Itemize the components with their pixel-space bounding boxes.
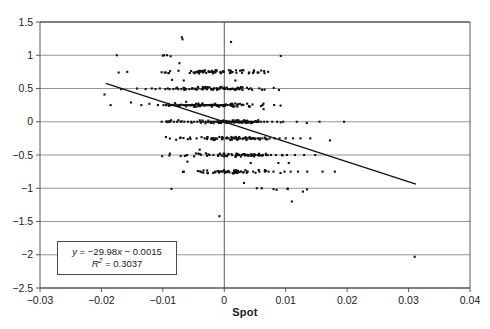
- scatter-point: [218, 106, 220, 108]
- scatter-point: [173, 121, 175, 123]
- scatter-point: [165, 104, 167, 106]
- y-tick-label: −1: [21, 182, 33, 194]
- scatter-point: [222, 87, 224, 89]
- scatter-point: [241, 69, 243, 71]
- scatter-point: [218, 136, 220, 138]
- scatter-point: [218, 215, 220, 217]
- scatter-point: [230, 88, 232, 90]
- scatter-point: [207, 86, 209, 88]
- scatter-point: [199, 119, 201, 121]
- scatter-point: [206, 169, 208, 171]
- scatter-point: [231, 71, 233, 73]
- scatter-point: [275, 154, 277, 156]
- scatter-point: [266, 138, 268, 140]
- scatter-point: [187, 138, 189, 140]
- scatter-point: [263, 72, 265, 74]
- scatter-point: [189, 136, 191, 138]
- scatter-point: [103, 93, 105, 95]
- scatter-point: [243, 119, 245, 121]
- scatter-point: [235, 88, 237, 90]
- scatter-point: [254, 138, 256, 140]
- scatter-point: [287, 188, 289, 190]
- scatter-point: [201, 119, 203, 121]
- scatter-point: [197, 86, 199, 88]
- scatter-point: [235, 69, 237, 71]
- scatter-point: [250, 153, 252, 155]
- scatter-point: [267, 171, 269, 173]
- scatter-point: [202, 169, 204, 171]
- scatter-point: [178, 62, 180, 64]
- scatter-point: [318, 121, 320, 123]
- scatter-point: [221, 170, 223, 172]
- scatter-point: [260, 121, 262, 123]
- scatter-point: [236, 171, 238, 173]
- scatter-point: [306, 188, 308, 190]
- scatter-point: [249, 106, 251, 108]
- scatter-point: [207, 121, 209, 123]
- scatter-point: [185, 101, 187, 103]
- scatter-point: [204, 122, 206, 124]
- scatter-point: [213, 122, 215, 124]
- scatter-point: [228, 104, 230, 106]
- x-tick-label: −0.01: [150, 294, 177, 306]
- scatter-point: [261, 155, 263, 157]
- scatter-point: [183, 171, 185, 173]
- scatter-point: [256, 121, 258, 123]
- scatter-point: [214, 71, 216, 73]
- scatter-point: [265, 153, 267, 155]
- scatter-point: [241, 121, 243, 123]
- scatter-point: [169, 70, 171, 72]
- scatter-point: [227, 170, 229, 172]
- scatter-point: [165, 136, 167, 138]
- scatter-point: [116, 54, 118, 56]
- scatter-point: [237, 153, 239, 155]
- scatter-point: [166, 121, 168, 123]
- scatter-point: [246, 121, 248, 123]
- scatter-point: [213, 138, 215, 140]
- scatter-point: [334, 171, 336, 173]
- scatter-point: [258, 154, 260, 156]
- scatter-point: [168, 105, 170, 107]
- scatter-point: [230, 136, 232, 138]
- scatter-point: [234, 137, 236, 139]
- scatter-point: [177, 70, 179, 72]
- scatter-point: [172, 88, 174, 90]
- scatter-point: [200, 122, 202, 124]
- scatter-point: [297, 171, 299, 173]
- scatter-point: [195, 71, 197, 73]
- scatter-point: [233, 170, 235, 172]
- scatter-point: [198, 105, 200, 107]
- scatter-point: [269, 137, 271, 139]
- scatter-point: [267, 154, 269, 156]
- scatter-point: [145, 88, 147, 90]
- scatter-point: [244, 169, 246, 171]
- scatter-point: [240, 156, 242, 158]
- scatter-point: [233, 122, 235, 124]
- scatter-point: [280, 105, 282, 107]
- scatter-point: [226, 137, 228, 139]
- y-tick-label: −0.5: [12, 149, 33, 161]
- scatter-point: [198, 72, 200, 74]
- scatter-point: [212, 104, 214, 106]
- scatter-point: [292, 137, 294, 139]
- scatter-point: [241, 72, 243, 74]
- regression-equation-box: y = −29.98x − 0.0015 R2 = 0.3037: [57, 241, 177, 275]
- scatter-point: [272, 188, 274, 190]
- scatter-point: [164, 88, 166, 90]
- scatter-point: [162, 55, 164, 57]
- regression-equation-line: y = −29.98x − 0.0015: [72, 246, 162, 258]
- scatter-point: [230, 41, 232, 43]
- scatter-point: [188, 88, 190, 90]
- scatter-point: [170, 119, 172, 121]
- scatter-point: [167, 87, 169, 89]
- y-tick-label: −2.5: [12, 282, 33, 294]
- scatter-point: [294, 154, 296, 156]
- scatter-point: [234, 102, 236, 104]
- scatter-point: [191, 88, 193, 90]
- scatter-point: [256, 187, 258, 189]
- x-tick-label: 0.02: [337, 294, 358, 306]
- scatter-point: [233, 172, 235, 174]
- scatter-point: [136, 87, 138, 89]
- scatter-point: [223, 153, 225, 155]
- scatter-point: [187, 121, 189, 123]
